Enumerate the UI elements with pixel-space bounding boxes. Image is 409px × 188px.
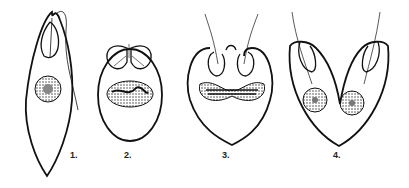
stage-2-cell (98, 44, 162, 141)
cell-division-diagram: 1. 2. 3. 4. (0, 0, 409, 188)
diagram-drawing (0, 0, 409, 188)
stage-label-2: 2. (124, 150, 132, 160)
stage-label-1: 1. (70, 150, 78, 160)
stage-4-cell (290, 12, 389, 146)
stage-label-4: 4. (333, 150, 341, 160)
stage-label-3: 3. (222, 150, 230, 160)
stage-3-cell (188, 14, 272, 145)
